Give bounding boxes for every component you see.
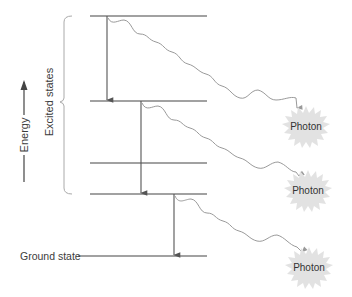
- energy-levels: Ground state: [20, 16, 207, 262]
- excited-states-bracket: Excited states: [43, 16, 72, 194]
- wave-1: [108, 18, 297, 108]
- wave-2: [142, 103, 299, 176]
- photon-3: Photon: [285, 247, 333, 289]
- photon-label: Photon: [292, 185, 324, 196]
- photon-label: Photon: [290, 121, 322, 132]
- photon-2: Photon: [284, 170, 332, 212]
- excited-states-label: Excited states: [43, 67, 55, 136]
- photon-label: Photon: [293, 262, 325, 273]
- energy-axis: Energy: [16, 80, 32, 182]
- brace-icon: [60, 16, 72, 194]
- energy-level-diagram: Energy Excited states Ground state Photo…: [0, 0, 352, 297]
- energy-label: Energy: [18, 117, 30, 152]
- ground-state-label: Ground state: [20, 250, 81, 262]
- photon-1: Photon: [282, 106, 330, 148]
- transitions: [107, 16, 174, 255]
- wave-3: [175, 196, 302, 252]
- photon-waves: [108, 18, 302, 252]
